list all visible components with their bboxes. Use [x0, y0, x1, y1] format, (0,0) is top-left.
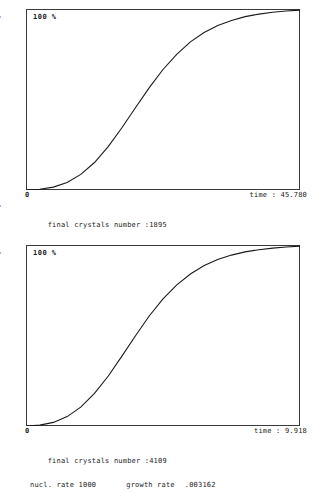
caption-nucl-rate-2: nucl. rate 1000	[30, 481, 96, 489]
percent-max-label-1: 100 %	[33, 14, 57, 21]
curve-polyline-2	[26, 246, 300, 426]
caption-final-crystals-2: final crystals number :4109	[48, 457, 167, 465]
caption-rates-2: nucl. rate 1000growth rate.003162	[30, 479, 216, 491]
x-axis-time-label-2: time : 9.918	[254, 428, 307, 435]
x-axis-time-label-1: time : 45.780	[250, 192, 307, 199]
plot-caption-2: final crystals number :4109 nucl. rate 1…	[30, 443, 216, 493]
y-axis-label-1: Crystallinity fraction	[0, 0, 1, 28]
y-axis-label-2: Crystallinity fraction	[0, 134, 1, 264]
caption-growth-rate-label-2: growth rate	[126, 481, 175, 489]
x-axis-origin-label-1: 0	[25, 192, 29, 199]
x-axis-origin-label-2: 0	[25, 428, 29, 435]
crystallinity-curve-1	[26, 9, 300, 190]
plot-area-1: 100 %	[26, 9, 300, 190]
percent-max-label-2: 100 %	[33, 250, 57, 257]
crystallinity-curve-2	[26, 245, 300, 426]
caption-final-crystals-1: final crystals number :1895	[48, 221, 167, 229]
curve-polyline-1	[26, 10, 300, 190]
plot-area-2: 100 %	[26, 245, 300, 426]
caption-growth-rate-value-2: .003162	[185, 481, 216, 489]
